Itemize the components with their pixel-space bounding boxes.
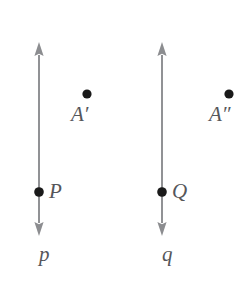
point-dot-A-double-prime: [224, 89, 233, 98]
line-label-p: p: [39, 244, 50, 265]
point-dot-A-prime: [82, 89, 91, 98]
line-q-arrowhead-bottom: [157, 222, 166, 236]
point-dot-Q: [157, 187, 167, 197]
point-label-A-double-prime: A″: [209, 104, 231, 125]
point-label-P: P: [49, 181, 62, 202]
line-label-q: q: [162, 244, 173, 265]
directed-line-p: [34, 42, 43, 236]
point-dot-P: [34, 187, 44, 197]
geometry-figure: P Q p q A′ A″: [0, 0, 247, 286]
line-p-arrowhead-top: [34, 42, 43, 56]
line-q-arrowhead-top: [157, 42, 166, 56]
point-label-A-prime: A′: [71, 104, 88, 125]
point-label-Q: Q: [172, 181, 187, 202]
figure-canvas: [0, 0, 247, 286]
directed-line-q: [157, 42, 166, 236]
line-p-arrowhead-bottom: [34, 222, 43, 236]
